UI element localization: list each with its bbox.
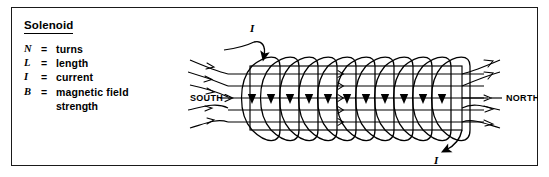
legend-equals: = [41,57,56,71]
legend-row: N = turns [24,43,129,57]
legend-table: N = turns L = length I = current [24,43,129,115]
legend-row: I = current [24,71,129,85]
legend-equals: = [41,86,56,100]
legend-symbol: L [24,57,41,71]
south-label: SOUTH [190,93,223,103]
legend-definition: length [56,57,129,71]
north-label: NORTH [506,93,538,103]
coil-windings [242,57,471,141]
legend-block: Solenoid N = turns L = length I [24,15,199,114]
page-title: Solenoid [24,19,73,34]
solenoid-diagram: SOUTH [188,16,538,166]
legend-equals: = [41,43,56,57]
south-pole-group: SOUTH [190,93,232,103]
solenoid-svg: SOUTH [188,16,538,166]
legend-symbol: B [24,86,41,100]
current-in-label: I [249,22,255,34]
legend-equals: = [41,71,56,85]
legend-symbol: I [24,71,41,85]
solenoid-figure-page: Solenoid N = turns L = length I [0,0,549,177]
current-out-label: I [433,154,439,166]
legend-definition: current [56,71,129,85]
north-pole-group: NORTH [491,93,538,103]
legend-definition-continuation: strength [56,100,129,114]
legend-row-continuation: strength [24,100,129,114]
legend-definition: turns [56,43,129,57]
legend-row: L = length [24,57,129,71]
coil-current-arrowheads [248,94,446,104]
figure-frame: Solenoid N = turns L = length I [11,7,538,166]
field-lines-north-chevrons [484,60,493,126]
legend-symbol: N [24,43,41,57]
field-lines-north [462,60,500,128]
current-in-lead: I [224,22,265,56]
legend-definition: magnetic field [56,86,129,100]
legend-row: B = magnetic field [24,86,129,100]
